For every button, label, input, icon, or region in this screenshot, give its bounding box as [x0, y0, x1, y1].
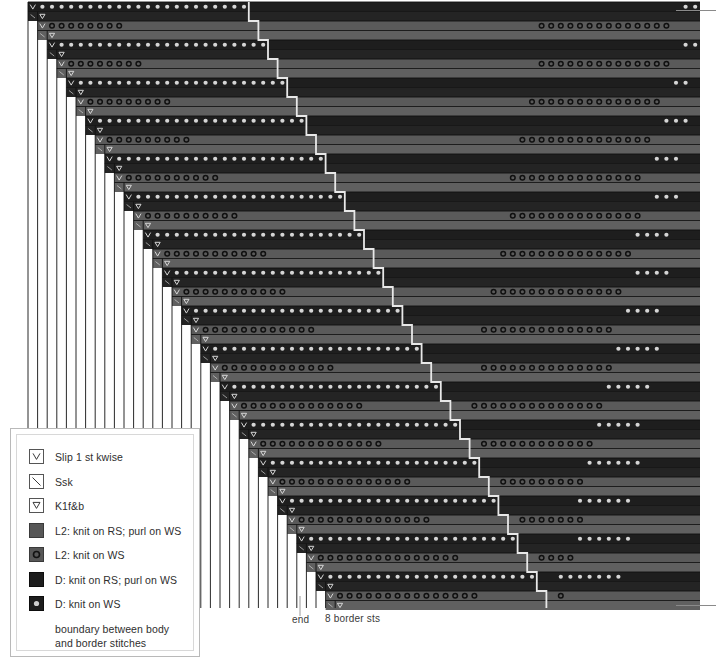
bottom-rule [676, 605, 716, 606]
legend-item-label: D: knit on RS; purl on WS [55, 572, 177, 587]
l2-knit-ws-icon [29, 547, 44, 562]
legend-item-label: D: knit on WS [55, 596, 120, 611]
caption-border-sts: 8 border sts [325, 613, 380, 624]
legend-item-label: K1f&b [55, 498, 84, 513]
legend-item: D: knit on WS [29, 596, 189, 612]
top-rule [676, 10, 716, 11]
legend-item-list: Slip 1 st kwiseSskK1f&bL2: knit on RS; p… [29, 449, 189, 657]
legend-item: D: knit on RS; purl on WS [29, 572, 189, 588]
legend-item: Slip 1 st kwise [29, 449, 189, 465]
boundary-line-icon [29, 621, 44, 636]
legend-item: L2: knit on RS; purl on WS [29, 523, 189, 539]
legend-item: L2: knit on WS [29, 547, 189, 563]
legend-item-label: boundary between body and border stitche… [55, 621, 189, 650]
d-knit-ws-icon [29, 596, 44, 611]
legend-item-label: Ssk [55, 474, 73, 489]
legend-item: Ssk [29, 474, 189, 490]
chart-legend: Slip 1 st kwiseSskK1f&bL2: knit on RS; p… [10, 428, 200, 657]
legend-item-label: L2: knit on WS [55, 547, 125, 562]
ssk-icon [29, 474, 44, 489]
legend-item-label: L2: knit on RS; purl on WS [55, 523, 181, 538]
k1f-and-b-icon [29, 498, 44, 513]
l2-knit-rs-purl-ws-icon [29, 523, 44, 538]
legend-item-label: Slip 1 st kwise [55, 449, 123, 464]
legend-item: boundary between body and border stitche… [29, 621, 189, 650]
d-knit-rs-purl-ws-icon [29, 572, 44, 587]
legend-item: K1f&b [29, 498, 189, 514]
slip-1-kwise-icon [29, 449, 44, 464]
caption-end: end [292, 614, 309, 625]
